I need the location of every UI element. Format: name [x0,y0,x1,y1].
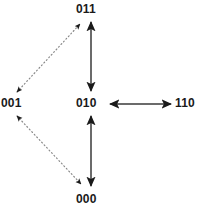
node-label-001: 001 [1,96,22,110]
state-transition-diagram: 011 001 010 110 000 [0,0,202,212]
edge-001-011 [17,24,80,92]
node-label-011: 011 [76,2,96,16]
edge-001-000 [17,116,81,184]
node-label-110: 110 [175,96,195,110]
node-label-000: 000 [76,192,97,206]
node-label-010: 010 [76,96,97,110]
diagram-edges [0,0,202,212]
